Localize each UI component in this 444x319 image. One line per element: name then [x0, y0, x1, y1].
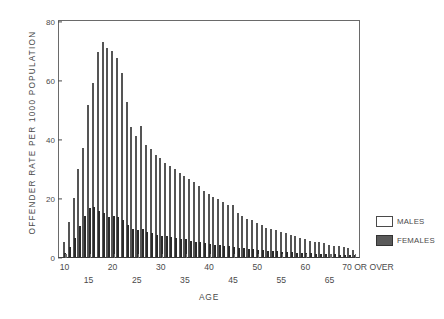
- bar-females: [195, 242, 197, 257]
- x-tick-mark: [234, 254, 235, 258]
- bar-females: [103, 213, 105, 257]
- x-tick-label: 20: [108, 262, 118, 272]
- x-tick-label: 60: [301, 262, 311, 272]
- x-tick-mark: [90, 254, 91, 258]
- y-tick-label: 0: [51, 254, 55, 263]
- bar-females: [113, 216, 115, 257]
- bar-females: [291, 252, 293, 257]
- x-tick-mark: [65, 254, 66, 258]
- x-tick-label: 30: [156, 262, 166, 272]
- plot-area: 020406080: [58, 20, 360, 258]
- y-tick-label: 20: [46, 195, 55, 204]
- legend-label-females: FEMALES: [397, 236, 435, 245]
- bar-females: [310, 253, 312, 257]
- x-tick-label: 10: [60, 262, 70, 272]
- bar-females: [74, 238, 76, 257]
- bar-females: [166, 236, 168, 257]
- y-tick-mark: [58, 80, 62, 81]
- x-axis-title: AGE: [58, 292, 360, 302]
- bar-series-container: [59, 21, 359, 257]
- x-tick-mark: [306, 254, 307, 258]
- bar-females: [190, 241, 192, 257]
- x-tick-label: 25: [132, 275, 142, 285]
- bar-females: [339, 255, 341, 258]
- y-axis-title: OFFENDER RATE PER 1000 POPULATION: [28, 5, 37, 261]
- bar-females: [296, 253, 298, 257]
- bar-females: [252, 249, 254, 257]
- bar-females: [108, 217, 110, 257]
- bar-females: [142, 229, 144, 257]
- bar-females: [214, 245, 216, 257]
- bar-females: [272, 251, 274, 257]
- bar-females: [170, 237, 172, 257]
- bar-females: [267, 251, 269, 257]
- bar-females: [180, 239, 182, 257]
- x-tick-mark: [282, 254, 283, 258]
- x-tick-mark: [138, 254, 139, 258]
- bar-females: [276, 251, 278, 257]
- x-tick-mark: [186, 254, 187, 258]
- bar-females: [199, 242, 201, 257]
- x-tick-label: 45: [228, 275, 238, 285]
- x-tick-mark: [210, 254, 211, 258]
- males-swatch-icon: [376, 216, 393, 227]
- bar-females: [325, 254, 327, 257]
- bar-females: [286, 252, 288, 257]
- y-tick-label: 40: [46, 136, 55, 145]
- bar-females: [156, 235, 158, 257]
- x-tick-mark: [355, 254, 356, 258]
- bar-females: [146, 232, 148, 257]
- y-tick-mark: [58, 139, 62, 140]
- bar-females: [334, 254, 336, 257]
- females-swatch-icon: [376, 235, 393, 246]
- bar-females: [243, 248, 245, 257]
- bar-females: [248, 249, 250, 257]
- bar-females: [204, 243, 206, 257]
- bar-females: [320, 254, 322, 257]
- bar-females: [98, 211, 100, 257]
- bar-females: [223, 246, 225, 257]
- chart-figure: OFFENDER RATE PER 1000 POPULATION 020406…: [0, 0, 444, 319]
- bar-females: [117, 217, 119, 257]
- legend-item-males: MALES: [376, 216, 442, 227]
- legend-item-females: FEMALES: [376, 235, 442, 246]
- y-tick-mark: [58, 257, 62, 258]
- bar-females: [262, 250, 264, 257]
- y-tick-mark: [58, 198, 62, 199]
- x-tick-label: 65: [325, 275, 335, 285]
- chart-legend: MALES FEMALES: [376, 216, 442, 254]
- x-tick-label: 70 OR OVER: [342, 262, 394, 272]
- bar-females: [132, 229, 134, 257]
- bar-females: [84, 216, 86, 257]
- y-tick-mark: [58, 21, 62, 22]
- bar-females: [238, 248, 240, 257]
- bar-females: [301, 253, 303, 257]
- y-tick-label: 60: [46, 77, 55, 86]
- x-tick-label: 15: [84, 275, 94, 285]
- bar-females: [122, 220, 124, 257]
- x-tick-label: 55: [277, 275, 287, 285]
- bar-females: [315, 254, 317, 257]
- legend-label-males: MALES: [397, 217, 424, 226]
- x-tick-mark: [162, 254, 163, 258]
- bar-females: [79, 226, 81, 257]
- x-tick-label: 40: [204, 262, 214, 272]
- bar-females: [219, 245, 221, 257]
- bar-females: [175, 238, 177, 257]
- bar-females: [93, 207, 95, 257]
- x-tick-label: 35: [180, 275, 190, 285]
- x-tick-label: 50: [252, 262, 262, 272]
- bar-females: [69, 247, 71, 257]
- x-tick-mark: [330, 254, 331, 258]
- bar-females: [228, 246, 230, 257]
- bar-females: [349, 255, 351, 257]
- x-tick-mark: [258, 254, 259, 258]
- bar-females: [89, 208, 91, 257]
- bar-females: [344, 255, 346, 257]
- bar-females: [151, 233, 153, 257]
- bar-females: [127, 225, 129, 257]
- y-tick-label: 80: [46, 18, 55, 27]
- x-tick-mark: [114, 254, 115, 258]
